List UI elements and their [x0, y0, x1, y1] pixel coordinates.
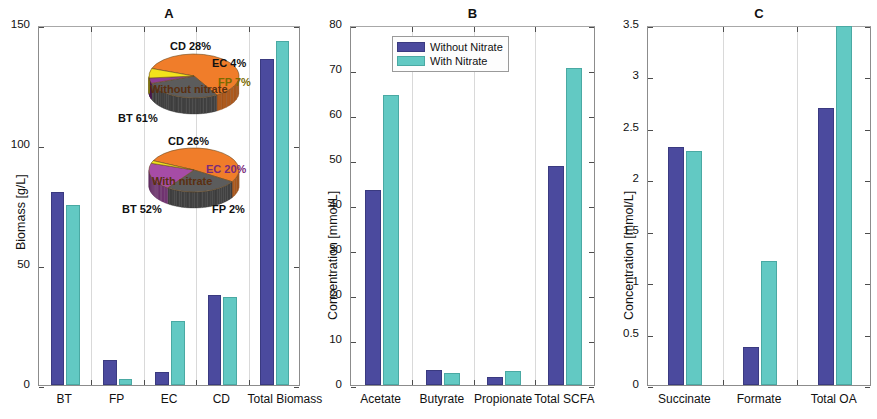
panel-b: B Concentration [mmol/L] Without Nitrate… [310, 0, 600, 419]
x-axis-tick-bottom [144, 380, 145, 385]
bar-ec-without-nitrate [155, 372, 169, 385]
x-axis-tick-label: BT [38, 392, 90, 406]
bar-total-scfa-without-nitrate [548, 166, 564, 385]
y-axis-tick-right [589, 162, 594, 163]
y-axis-tick-label: 100 [0, 138, 30, 150]
bar-propionate-without-nitrate [487, 377, 503, 385]
y-axis-tick [351, 297, 356, 298]
pie-slice-label-ec: EC 4% [212, 57, 246, 69]
y-axis-tick-right [865, 130, 870, 131]
y-axis-tick-label: 150 [0, 18, 30, 30]
y-axis-tick-label: 3 [600, 69, 639, 81]
bar-cd-with-nitrate [223, 297, 237, 385]
bar-fp-with-nitrate [119, 379, 133, 385]
y-axis-tick-right [865, 387, 870, 388]
bar-acetate-without-nitrate [365, 190, 381, 385]
bar-succinate-without-nitrate [668, 147, 684, 385]
y-axis-tick-right [865, 181, 870, 182]
pie-slice-label-cd: CD 26% [168, 135, 209, 147]
x-axis-tick-label: Total SCFA [534, 392, 595, 406]
y-axis-tick-label: 0 [600, 378, 639, 390]
x-axis-tick-top [196, 27, 197, 32]
y-axis-tick-label: 1.5 [600, 224, 639, 236]
y-axis-tick-right [294, 267, 299, 268]
x-axis-tick-bottom [249, 380, 250, 385]
panel-c-title: C [647, 6, 871, 21]
panel-c-y-axis-title: Concentration [mmol/L] [622, 191, 636, 320]
pie-slice-label-fp: FP 2% [212, 203, 245, 215]
y-axis-tick-right [589, 297, 594, 298]
y-axis-tick-label: 20 [310, 288, 342, 300]
x-axis-tick-top [91, 27, 92, 32]
x-axis-tick-top [535, 27, 536, 32]
y-axis-tick-label: 3.5 [600, 18, 639, 30]
pie-slice-label-ec: EC 20% [206, 163, 246, 175]
y-axis-tick-label: 70 [310, 63, 342, 75]
bar-propionate-with-nitrate [505, 371, 521, 385]
y-axis-tick-label: 0 [0, 378, 30, 390]
x-axis-gridline [723, 27, 724, 385]
x-axis-tick-label: Total Biomass [248, 392, 300, 406]
bar-formate-with-nitrate [761, 261, 777, 385]
bar-formate-without-nitrate [743, 347, 759, 385]
y-axis-tick [648, 27, 653, 28]
x-axis-tick-label: Propionate [473, 392, 534, 406]
pie-center-label: With nitrate [152, 175, 212, 187]
y-axis-tick [39, 27, 44, 28]
y-axis-tick-right [294, 147, 299, 148]
x-axis-tick-top [797, 27, 798, 32]
bar-cd-without-nitrate [208, 295, 222, 385]
y-axis-tick-right [294, 387, 299, 388]
y-axis-tick [648, 130, 653, 131]
legend-entry-with-nitrate: With Nitrate [397, 54, 503, 68]
y-axis-tick-label: 30 [310, 243, 342, 255]
x-axis-tick-top [249, 27, 250, 32]
pie-slice-label-bt: BT 61% [118, 112, 158, 124]
y-axis-tick [351, 117, 356, 118]
x-axis-tick-bottom [196, 380, 197, 385]
panel-b-plot-area [350, 26, 595, 386]
panel-b-legend: Without Nitrate With Nitrate [392, 36, 509, 72]
y-axis-tick [648, 336, 653, 337]
y-axis-tick [648, 78, 653, 79]
y-axis-tick [351, 252, 356, 253]
bar-butyrate-without-nitrate [426, 370, 442, 385]
panel-b-title: B [350, 6, 595, 21]
y-axis-tick-label: 2 [600, 172, 639, 184]
y-axis-tick-label: 0.5 [600, 327, 639, 339]
y-axis-tick-label: 10 [310, 333, 342, 345]
bar-ec-with-nitrate [171, 321, 185, 385]
y-axis-tick-label: 50 [0, 258, 30, 270]
y-axis-tick-right [589, 117, 594, 118]
panel-a-title: A [38, 6, 300, 21]
y-axis-tick-right [589, 342, 594, 343]
pie-slice-label-fp: FP 7% [218, 76, 251, 88]
y-axis-tick-right [865, 27, 870, 28]
y-axis-tick-label: 60 [310, 108, 342, 120]
x-axis-tick-label: CD [195, 392, 247, 406]
pie-center-label: Without nitrate [150, 83, 228, 95]
bar-total-biomass-without-nitrate [260, 59, 274, 385]
pie-slice-label-bt: BT 52% [122, 203, 162, 215]
y-axis-tick-right [865, 284, 870, 285]
y-axis-tick [351, 387, 356, 388]
bar-total-oa-without-nitrate [818, 108, 834, 385]
bar-bt-without-nitrate [51, 192, 65, 385]
y-axis-tick [648, 284, 653, 285]
y-axis-tick [351, 27, 356, 28]
panel-b-y-axis-title: Concentration [mmol/L] [326, 191, 340, 320]
x-axis-tick-label: Formate [722, 392, 797, 406]
x-axis-gridline [412, 27, 413, 385]
x-axis-tick-bottom [723, 380, 724, 385]
panel-a-y-axis-title: Biomass [g/L] [14, 174, 28, 250]
legend-label-with-nitrate: With Nitrate [430, 55, 487, 67]
y-axis-tick-label: 2.5 [600, 121, 639, 133]
y-axis-tick-right [589, 27, 594, 28]
x-axis-tick-label: FP [90, 392, 142, 406]
y-axis-tick [351, 207, 356, 208]
y-axis-tick [39, 387, 44, 388]
y-axis-tick [39, 267, 44, 268]
bar-fp-without-nitrate [103, 360, 117, 385]
legend-swatch-with-nitrate [397, 56, 425, 66]
y-axis-tick-right [589, 252, 594, 253]
